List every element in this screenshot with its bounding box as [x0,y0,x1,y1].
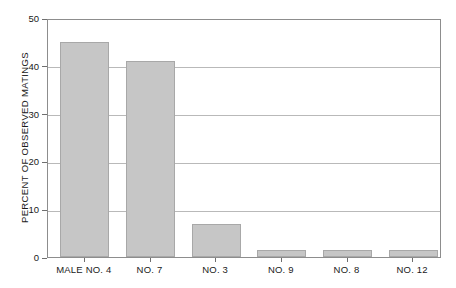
y-tick-label: 40 [11,61,39,72]
x-tick-label: NO. 7 [137,264,163,275]
bar [192,224,241,257]
x-tick-label: NO. 12 [397,264,428,275]
bar [323,250,372,257]
bar [257,250,306,257]
x-tick-label: MALE NO. 4 [56,264,111,275]
x-tick-mark [281,258,282,262]
x-tick-label: NO. 8 [334,264,360,275]
x-tick-mark [150,258,151,262]
bar [126,61,175,257]
x-tick-label: NO. 3 [202,264,228,275]
y-tick-label: 0 [11,252,39,263]
x-tick-mark [347,258,348,262]
y-tick-label: 50 [11,13,39,24]
plot-area [47,19,441,258]
x-tick-mark [215,258,216,262]
x-tick-label: NO. 9 [268,264,294,275]
bar [60,42,109,257]
bar-chart-figure: PERCENT OF OBSERVED MATINGS 01020304050 … [0,0,456,288]
bar [389,250,438,257]
y-tick-label: 30 [11,109,39,120]
y-axis-title: PERCENT OF OBSERVED MATINGS [18,17,32,258]
x-tick-mark [84,258,85,262]
y-tick-label: 20 [11,156,39,167]
y-tick-label: 10 [11,204,39,215]
x-tick-mark [412,258,413,262]
